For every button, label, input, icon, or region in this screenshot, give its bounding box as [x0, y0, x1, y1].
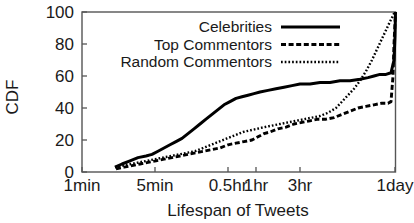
x-tick-label: 1hr	[244, 176, 269, 195]
y-tick-label: 60	[55, 67, 74, 86]
chart-figure: 100806040200 1min5min0.5hr1hr3hr1day Cel…	[0, 0, 414, 223]
y-tick-label: 80	[55, 35, 74, 54]
y-tick-label: 100	[46, 3, 74, 22]
x-axis-title: Lifespan of Tweets	[167, 201, 308, 220]
y-tick-label: 20	[55, 131, 74, 150]
y-tick-label: 40	[55, 99, 74, 118]
cdf-line-chart: 100806040200 1min5min0.5hr1hr3hr1day Cel…	[0, 0, 414, 223]
x-tick-label: 1day	[377, 176, 414, 195]
x-tick-label: 1min	[64, 176, 101, 195]
x-tick-label: 3hr	[288, 176, 313, 195]
legend-label-top-commentors: Top Commentors	[154, 36, 272, 53]
x-tick-label: 5min	[137, 176, 174, 195]
x-tick-label: 0.5hr	[209, 176, 248, 195]
y-axis-title: CDF	[3, 80, 22, 115]
legend-label-random-commentors: Random Commentors	[120, 53, 272, 70]
legend-label-celebrities: Celebrities	[199, 18, 272, 35]
